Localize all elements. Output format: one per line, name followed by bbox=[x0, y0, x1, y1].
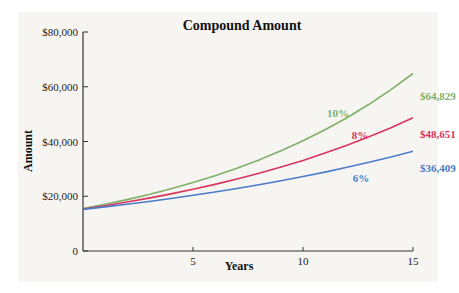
series-label-10pct: 10% bbox=[327, 107, 349, 119]
y-tick-label: $40,000 bbox=[42, 136, 78, 148]
end-value-10pct: $64,829 bbox=[420, 90, 456, 102]
x-tick-label: 5 bbox=[190, 255, 196, 267]
y-tick-label: $80,000 bbox=[42, 26, 78, 38]
y-tick-label: $60,000 bbox=[42, 81, 78, 93]
y-ticks: 0$20,000$40,000$60,000$80,000 bbox=[42, 26, 88, 257]
chart-title: Compound Amount bbox=[183, 18, 302, 33]
x-tick-label: 15 bbox=[408, 255, 420, 267]
x-tick-label: 10 bbox=[298, 255, 310, 267]
x-axis-label: Years bbox=[225, 259, 254, 273]
end-value-8pct: $48,651 bbox=[420, 128, 456, 140]
series-lines bbox=[83, 74, 413, 210]
end-value-6pct: $36,409 bbox=[420, 162, 456, 174]
y-axis-label: Amount bbox=[21, 130, 35, 172]
y-tick-label: $20,000 bbox=[42, 190, 78, 202]
series-label-6pct: 6% bbox=[353, 172, 370, 184]
compound-amount-chart: Compound Amount 0$20,000$40,000$60,000$8… bbox=[0, 0, 459, 293]
series-line-10pct bbox=[83, 74, 413, 209]
series-label-8pct: 8% bbox=[352, 129, 369, 141]
y-tick-label: 0 bbox=[73, 245, 79, 257]
